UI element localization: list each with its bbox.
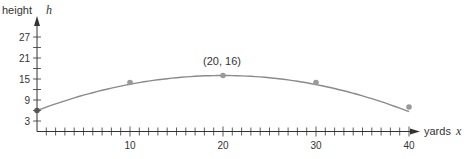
data-point (34, 108, 40, 114)
data-point (313, 80, 319, 86)
y-tick-label: 21 (19, 53, 31, 64)
y-axis-label: height (2, 4, 32, 16)
axis-ticks: 1020304039152127 (19, 32, 415, 151)
y-tick-label: 9 (24, 95, 30, 106)
parabola-curve (37, 76, 409, 112)
y-tick-label: 27 (19, 32, 31, 43)
data-point (220, 73, 226, 79)
y-axis-arrow-icon (34, 16, 40, 26)
y-tick-label: 15 (19, 74, 31, 85)
x-axis-label: yards (424, 125, 451, 137)
x-axis-variable: x (455, 124, 462, 138)
x-tick-label: 20 (217, 140, 229, 151)
x-tick-label: 10 (124, 140, 136, 151)
parabola-chart: 1020304039152127 height h yards x (20, 1… (0, 0, 466, 159)
y-tick-label: 3 (24, 116, 30, 127)
vertex-annotation: (20, 16) (203, 55, 241, 67)
x-axis-arrow-icon (410, 129, 420, 135)
x-tick-label: 30 (310, 140, 322, 151)
x-tick-label: 40 (403, 140, 415, 151)
y-axis-variable: h (46, 3, 52, 17)
data-point (406, 104, 412, 110)
data-point (127, 80, 133, 86)
data-curve (37, 76, 409, 112)
